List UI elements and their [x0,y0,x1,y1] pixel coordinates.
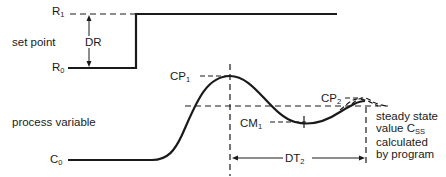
dr-label: DR [84,36,103,48]
cp1-label-base: CP [170,70,186,82]
steady-state-note-line3: calculated [376,137,438,149]
cp2-label-base: CP [321,92,337,104]
set-point-step-line [68,14,337,68]
r0-label-sub: 0 [60,66,64,75]
r1-label-sub: 1 [60,10,64,19]
dt2-arrow-head-left [232,156,238,161]
cp1-label: CP1 [170,70,190,86]
process-variable-label: process variable [12,116,96,128]
steady-state-note-line4: by program [376,149,438,161]
steady-state-note: steady state value CSS calculated by pro… [376,111,438,160]
process-variable-curve [68,76,365,160]
steady-state-note-line2: value CSS [376,123,438,138]
cp1-label-sub: 1 [186,75,190,84]
c0-label-sub: 0 [58,158,62,167]
set-point-label: set point [12,36,55,48]
cp2-label: CP2 [321,92,341,108]
dr-arrow-head-up [87,15,92,21]
dt2-label-base: DT [285,152,300,164]
r0-label: R0 [52,61,64,77]
dt2-label-sub: 2 [300,157,304,166]
cp2-label-sub: 2 [337,97,341,106]
dt2-label: DT2 [285,152,305,168]
r1-label: R1 [52,5,64,21]
dt2-arrow-head-right [359,156,365,161]
steady-state-note-line2-base: value C [376,122,415,134]
cm1-label: CM1 [240,117,262,133]
dr-arrow-head-down [87,61,92,67]
c0-label: C0 [50,153,62,169]
cm1-label-sub: 1 [258,122,262,131]
cm1-label-base: CM [240,117,258,129]
css-subscript: SS [415,127,425,136]
